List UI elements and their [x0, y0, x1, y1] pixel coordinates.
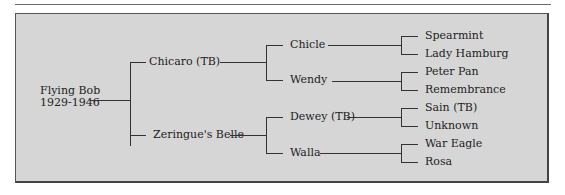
dam-sire-connector-left	[266, 117, 283, 118]
sire-connector-right	[220, 62, 266, 63]
gen1-bracket	[130, 62, 131, 146]
dam-dam-connector-left	[266, 153, 283, 154]
connector	[401, 162, 418, 163]
sire-dam-name: Wendy	[290, 74, 327, 86]
subject-connector	[90, 100, 130, 101]
sire-connector-left	[130, 62, 146, 63]
dam-sire-dam: Unknown	[425, 120, 478, 132]
dam-dam-bracket	[401, 144, 402, 163]
dam-sire-connector-right	[347, 117, 401, 118]
subject-years: 1929-1946	[40, 97, 100, 109]
dam-dam-name: Walla	[290, 147, 321, 159]
dam-sire-sire: Sain (TB)	[425, 102, 477, 114]
sire-sire-dam: Lady Hamburg	[425, 48, 509, 60]
sire-sire-connector-right	[328, 45, 401, 46]
sire-dam-connector-right	[332, 81, 401, 82]
sire-sire-sire: Spearmint	[425, 30, 483, 42]
dam-dam-connector-right	[320, 153, 401, 154]
top-rule	[15, 4, 551, 5]
connector	[401, 90, 418, 91]
dam-connector-left	[130, 135, 146, 136]
sire-dam-sire: Peter Pan	[425, 66, 479, 78]
sire-name: Chicaro (TB)	[149, 56, 220, 68]
connector	[401, 108, 418, 109]
connector	[401, 54, 418, 55]
dam-bracket	[266, 117, 267, 153]
dam-dam-sire: War Eagle	[425, 138, 482, 150]
sire-dam-bracket	[401, 72, 402, 91]
connector	[401, 144, 418, 145]
sire-sire-connector-left	[266, 45, 283, 46]
dam-connector-right	[230, 135, 266, 136]
sire-dam-dam: Remembrance	[425, 84, 506, 96]
connector	[401, 126, 418, 127]
sire-dam-connector-left	[266, 80, 283, 81]
dam-sire-bracket	[401, 108, 402, 127]
sire-bracket	[266, 45, 267, 81]
connector	[401, 36, 418, 37]
dam-dam-dam: Rosa	[425, 156, 452, 168]
sire-sire-name: Chicle	[290, 39, 325, 51]
sire-sire-bracket	[401, 36, 402, 55]
dam-sire-name: Dewey (TB)	[290, 111, 355, 123]
connector	[401, 72, 418, 73]
